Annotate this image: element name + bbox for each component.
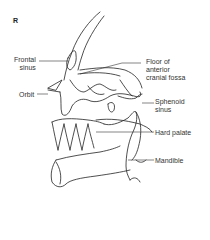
label-sphenoid-sinus: Sphenoid sinus bbox=[155, 98, 185, 114]
label-orbit: Orbit bbox=[19, 91, 34, 99]
label-frontal-sinus: Frontal sinus bbox=[14, 56, 36, 72]
label-hard-palate: Hard palate bbox=[155, 129, 191, 137]
label-floor-anterior-cranial-fossa: Floor of anterior cranial fossa bbox=[146, 58, 185, 82]
label-mandible: Mandible bbox=[155, 157, 183, 165]
